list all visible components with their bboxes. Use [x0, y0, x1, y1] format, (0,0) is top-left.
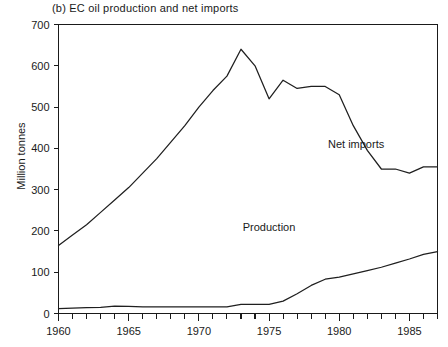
x-tick-label: 1965: [116, 325, 140, 337]
x-tick-label: 1975: [257, 325, 281, 337]
x-tick-label: 1970: [187, 325, 211, 337]
data-series-group: [59, 49, 438, 308]
annotation-net-imports: Net imports: [328, 138, 385, 150]
annotation-production: Production: [243, 221, 296, 233]
y-tick-label: 500: [31, 101, 49, 113]
y-tick-label: 600: [31, 60, 49, 72]
y-tick-label: 400: [31, 142, 49, 154]
series-line-production: [59, 252, 438, 309]
x-axis-ticks: 196019651970197519801985: [46, 314, 421, 337]
y-tick-label: 0: [43, 308, 49, 320]
y-tick-label: 200: [31, 225, 49, 237]
chart-figure: (b) EC oil production and net imports Mi…: [0, 0, 448, 347]
x-tick-label: 1960: [46, 325, 70, 337]
y-tick-label: 100: [31, 266, 49, 278]
series-annotations: Net importsProduction: [243, 138, 385, 233]
plot-area: 0100200300400500600700 19601965197019751…: [0, 0, 448, 347]
y-axis-ticks: 0100200300400500600700: [31, 19, 58, 320]
x-tick-label: 1985: [397, 325, 421, 337]
x-tick-label: 1980: [327, 325, 351, 337]
y-tick-label: 700: [31, 19, 49, 31]
y-tick-label: 300: [31, 184, 49, 196]
x-axis-minor-ticks: [59, 314, 438, 319]
